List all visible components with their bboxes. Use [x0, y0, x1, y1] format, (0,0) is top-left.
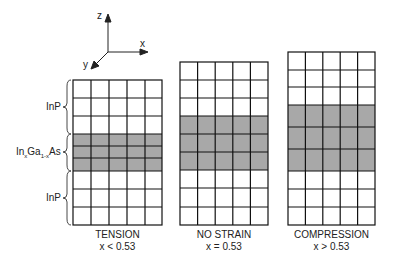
no-strain-grid	[180, 62, 268, 225]
compression-caption: COMPRESSIONx > 0.53	[276, 229, 387, 253]
layer-braces	[63, 80, 71, 225]
tension-caption: TENSIONx < 0.53	[73, 229, 162, 253]
no-strain-caption: NO STRAINx = 0.53	[174, 229, 274, 253]
tension-grid	[73, 80, 162, 225]
bottom-inp-label: InP	[46, 192, 61, 203]
y-axis-label: y	[83, 59, 88, 70]
compression-grid	[288, 52, 375, 225]
top-inp-label: InP	[46, 101, 61, 112]
x-axis-label: x	[140, 38, 145, 49]
ingaas-label: InxGa1-xAs	[16, 146, 61, 159]
diagram-canvas	[0, 0, 395, 263]
z-axis-label: z	[97, 10, 102, 21]
